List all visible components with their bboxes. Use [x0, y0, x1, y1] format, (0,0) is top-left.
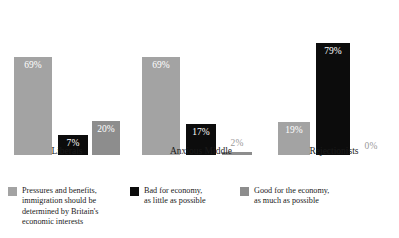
legend-label: Bad for economy, as little as possible [144, 186, 206, 207]
legend-label: Good for the economy, as much as possibl… [254, 186, 329, 207]
legend-item-bad-for-economy: Bad for economy, as little as possible [130, 186, 240, 207]
bar-value-label: 79% [316, 46, 350, 57]
group-label-liberals: Liberals [14, 146, 120, 156]
legend-swatch-icon [8, 187, 17, 196]
bar-value-label: 69% [14, 60, 52, 71]
legend-swatch-icon [130, 187, 139, 196]
legend-label-line: Bad for economy, [144, 186, 206, 196]
group-label-rejectionists: Rejectionists [278, 146, 390, 156]
bar-group-rejectionists: 19% 79% 0% Rejectionists [278, 13, 390, 155]
grouped-bar-chart: 69% 7% 20% Liberals [0, 0, 399, 238]
bar-value-label: 69% [142, 60, 180, 71]
legend-label-line: as little as possible [144, 196, 206, 206]
bar-slot: 19% [278, 13, 310, 155]
legend-label-line: determined by Britain's [22, 207, 99, 217]
plot-area: 69% 7% 20% Liberals [0, 0, 399, 172]
legend-label-line: as much as possible [254, 196, 329, 206]
bar-anxious-middle-series1: 69% [142, 57, 180, 155]
legend-label: Pressures and benefits, immigration shou… [22, 186, 99, 228]
bar-rejectionists-series2: 79% [316, 43, 350, 155]
bar-value-label: 19% [278, 125, 310, 136]
bar-group-anxious-middle: 69% 17% 2% Anxious Middle [142, 13, 260, 155]
legend-label-line: economic interests [22, 217, 99, 227]
group-label-anxious-middle: Anxious Middle [142, 146, 260, 156]
legend-label-line: Pressures and benefits, [22, 186, 99, 196]
bar-group-liberals: 69% 7% 20% Liberals [14, 13, 120, 155]
legend-swatch-icon [240, 187, 249, 196]
legend-label-line: immigration should be [22, 196, 99, 206]
bar-slot: 2% [222, 13, 252, 155]
bar-slot: 7% [58, 13, 88, 155]
chart-legend: Pressures and benefits, immigration shou… [8, 186, 396, 228]
bar-slot: 0% [358, 13, 384, 155]
bar-slot: 17% [186, 13, 216, 155]
legend-label-line: Good for the economy, [254, 186, 329, 196]
bar-slot: 79% [316, 13, 350, 155]
bar-slot: 69% [142, 13, 180, 155]
bar-value-label: 17% [186, 127, 216, 138]
legend-item-good-for-economy: Good for the economy, as much as possibl… [240, 186, 360, 207]
bar-slot: 20% [92, 13, 120, 155]
bar-value-label: 20% [92, 124, 120, 135]
bar-liberals-series1: 69% [14, 57, 52, 155]
legend-item-economic-interests: Pressures and benefits, immigration shou… [8, 186, 130, 228]
bar-slot: 69% [14, 13, 52, 155]
